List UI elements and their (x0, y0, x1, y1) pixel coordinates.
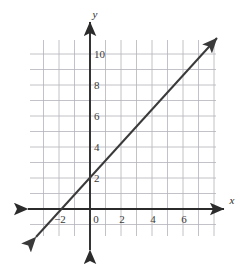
y-tick-label: 6 (94, 110, 100, 122)
x-tick-label: 0 (93, 213, 99, 225)
y-tick-label: 2 (94, 172, 100, 184)
x-tick-label: 4 (150, 213, 156, 225)
plotted-line (36, 38, 217, 237)
y-tick-label: 4 (94, 141, 100, 153)
x-tick-label: 2 (119, 213, 125, 225)
x-axis-label: x (229, 194, 235, 206)
x-tick-label: 6 (181, 213, 187, 225)
y-tick-label: 8 (94, 79, 100, 91)
x-tick-label: −2 (54, 213, 66, 225)
y-tick-label: 10 (94, 48, 106, 60)
coordinate-plane-figure: −20246 246810 x y (0, 0, 245, 266)
y-axis-label: y (92, 8, 98, 20)
graph-canvas: −20246 246810 x y (0, 0, 245, 266)
line-y-equals-x-plus-3 (36, 38, 217, 237)
